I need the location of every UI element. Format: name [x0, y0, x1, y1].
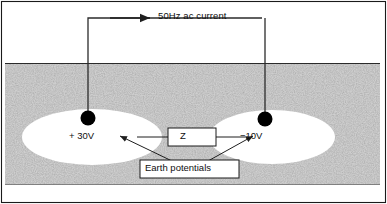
right-electrode-voltage-label: −10V — [240, 131, 262, 141]
left-electrode — [81, 111, 96, 126]
earth-potentials-label: Earth potentials — [145, 163, 211, 173]
left-electrode-voltage-label: + 30V — [69, 131, 94, 141]
impedance-box — [168, 128, 216, 146]
impedance-label: Z — [180, 131, 186, 141]
diagram-canvas — [0, 0, 387, 204]
current-source-label: 50Hz ac current — [158, 11, 227, 21]
right-electrode — [258, 112, 273, 127]
earth-potentials-diagram: 50Hz ac current + 30V −10V Z Earth poten… — [0, 0, 387, 204]
